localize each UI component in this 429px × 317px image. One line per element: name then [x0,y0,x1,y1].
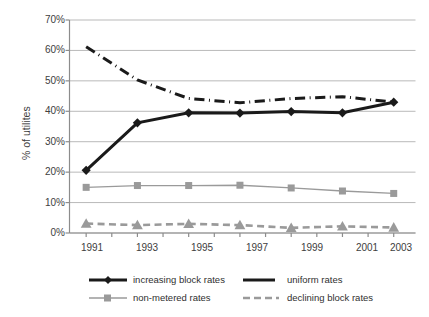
data-point-marker [236,182,243,189]
data-series-layer [81,47,399,232]
data-point-marker [184,108,193,117]
data-point-marker [235,109,244,118]
series-increasing-block-rates [82,98,399,175]
data-point-marker [390,190,397,197]
data-point-marker [288,184,295,191]
data-point-marker [339,188,346,195]
plot-area [0,0,429,317]
data-point-marker [287,107,296,116]
axis-lines [70,20,416,233]
legend-swatch-declining-block-rates [242,292,282,304]
series-uniform-rates [86,47,394,103]
data-point-marker [185,182,192,189]
legend-label: uniform rates [287,274,342,285]
legend-label: increasing block rates [133,274,225,285]
legend-swatch-non-metered-rates [88,292,128,304]
data-point-marker [388,222,399,232]
legend-item-non-metered-rates: non-metered rates [88,292,211,304]
legend-item-declining-block-rates: declining block rates [242,292,373,304]
data-point-marker [338,108,347,117]
legend-swatch-uniform-rates [242,274,282,286]
legend-label: declining block rates [287,292,373,303]
legend-swatch-increasing-block-rates [88,274,128,286]
gridlines [70,20,416,233]
chart-legend: increasing block rates uniform rates non… [0,272,429,314]
line-chart: % of utilites 70% 60% 50% 40% 30% 20% 10… [0,0,429,317]
data-point-marker [134,182,141,189]
x-axis-ticks [86,233,394,237]
legend-item-increasing-block-rates: increasing block rates [88,274,225,286]
series-declining-block-rates [81,218,399,232]
series-non-metered-rates [83,182,398,197]
legend-item-uniform-rates: uniform rates [242,274,342,286]
legend-label: non-metered rates [133,292,211,303]
data-point-marker [83,184,90,191]
series-line [86,47,394,103]
